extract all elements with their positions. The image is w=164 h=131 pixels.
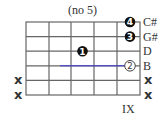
string-label-2: G# [143, 30, 158, 45]
svg-text:2: 2 [127, 61, 132, 71]
chord-title: (no 5) [68, 3, 97, 18]
svg-text:4: 4 [127, 17, 133, 27]
finger-2-dot: 2 [125, 61, 136, 72]
finger-3-dot: 3 [125, 31, 136, 42]
chord-grid: 4 3 1 2 [0, 0, 164, 131]
string-label-1: C# [143, 15, 157, 30]
string-label-3: D [143, 44, 152, 59]
finger-4-dot: 4 [125, 17, 136, 28]
mute-mark-left-6: x [14, 87, 22, 102]
grid-border [26, 22, 140, 95]
fret-position-label: IX [122, 102, 135, 117]
mute-mark-left-5: x [14, 72, 22, 87]
svg-text:3: 3 [127, 32, 133, 42]
finger-1-dot: 1 [77, 46, 88, 57]
svg-text:1: 1 [79, 47, 85, 57]
mute-mark-right-5: x [144, 72, 152, 87]
mute-mark-right-6: x [144, 87, 152, 102]
